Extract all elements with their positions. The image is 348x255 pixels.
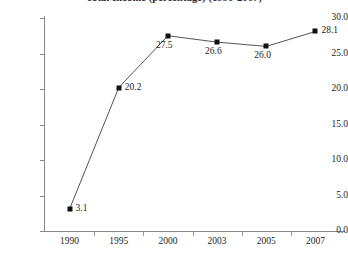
y-tick-mark	[40, 231, 44, 232]
x-tick-mark	[242, 232, 243, 236]
data-point-marker	[264, 44, 269, 49]
y-tick-label: 20.0	[312, 83, 348, 93]
data-point-label: 26.0	[254, 50, 271, 60]
data-point-marker	[165, 33, 170, 38]
x-tick-mark	[143, 232, 144, 236]
y-tick-label: 15.0	[312, 119, 348, 129]
y-tick-mark	[40, 54, 44, 55]
data-point-label: 20.2	[125, 82, 142, 92]
data-point-marker	[215, 40, 220, 45]
x-tick-label: 2000	[158, 236, 177, 246]
data-point-marker	[67, 206, 72, 211]
y-tick-mark	[40, 160, 44, 161]
y-tick-label: 5.0	[312, 190, 348, 200]
chart-title: Total Income (percentage) (1990-2007)	[0, 0, 348, 3]
data-point-marker	[313, 29, 318, 34]
data-point-marker	[116, 85, 121, 90]
y-tick-mark	[40, 196, 44, 197]
x-tick-label: 2007	[306, 236, 325, 246]
y-tick-mark	[40, 18, 44, 19]
y-tick-label: 25.0	[312, 48, 348, 58]
y-tick-label: 10.0	[312, 154, 348, 164]
y-tick-label: 0.0	[312, 225, 348, 235]
data-point-label: 27.5	[156, 40, 173, 50]
x-tick-mark	[94, 232, 95, 236]
data-point-label: 28.1	[321, 25, 338, 35]
data-point-label: 3.1	[76, 203, 88, 213]
x-tick-mark	[193, 232, 194, 236]
x-tick-label: 1990	[60, 236, 79, 246]
x-tick-mark	[291, 232, 292, 236]
x-tick-label: 2003	[208, 236, 227, 246]
x-tick-label: 1995	[109, 236, 128, 246]
y-tick-mark	[40, 125, 44, 126]
y-axis-line	[44, 16, 45, 232]
y-tick-mark	[40, 89, 44, 90]
x-tick-label: 2005	[257, 236, 276, 246]
y-tick-label: 30.0	[312, 12, 348, 22]
chart-container: Total Income (percentage) (1990-2007) 0.…	[0, 0, 348, 255]
x-axis-line	[44, 231, 345, 232]
series-line	[0, 0, 348, 255]
data-point-label: 26.6	[205, 46, 222, 56]
